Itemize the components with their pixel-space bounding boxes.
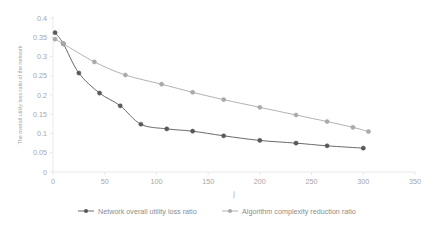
x-tick-label: 350 <box>409 177 421 186</box>
data-point-marker <box>294 113 298 117</box>
legend-label: Algorithm complexity reduction ratio <box>242 207 356 216</box>
x-tick-label: 100 <box>150 177 162 186</box>
data-point-marker <box>258 105 262 109</box>
data-point-marker <box>61 42 65 46</box>
legend-marker-icon <box>228 209 232 213</box>
y-tick-label: 0.1 <box>37 129 47 138</box>
data-point-marker <box>123 73 127 77</box>
data-point-marker <box>165 127 169 131</box>
y-tick-label: 0.3 <box>37 52 47 61</box>
data-point-marker <box>361 146 365 150</box>
series-0 <box>53 31 365 151</box>
data-point-marker <box>191 90 195 94</box>
y-tick-label: 0.25 <box>33 71 47 80</box>
data-point-marker <box>294 141 298 145</box>
data-point-marker <box>258 138 262 142</box>
series-1 <box>53 37 371 134</box>
x-tick-label: 0 <box>51 177 55 186</box>
data-point-marker <box>351 125 355 129</box>
chart-container: 00.050.10.150.20.250.30.350.405010015020… <box>0 0 440 226</box>
y-tick-label: 0.4 <box>37 14 47 23</box>
data-point-marker <box>366 129 370 133</box>
y-tick-label: 0.05 <box>33 148 47 157</box>
legend-item-0[interactable]: Network overall utility loss ratio <box>78 207 197 216</box>
data-point-marker <box>53 31 57 35</box>
chart-plot: 00.050.10.150.20.250.30.350.405010015020… <box>0 0 440 226</box>
data-point-marker <box>325 144 329 148</box>
x-tick-label: 150 <box>202 177 214 186</box>
x-tick-label: 300 <box>357 177 369 186</box>
y-tick-label: 0 <box>43 168 47 177</box>
data-point-marker <box>139 122 143 126</box>
x-tick-label: 50 <box>101 177 109 186</box>
series-line <box>55 39 368 131</box>
data-point-marker <box>92 60 96 64</box>
data-point-marker <box>97 91 101 95</box>
data-point-marker <box>77 71 81 75</box>
series-line <box>55 33 363 149</box>
y-axis-title: The overall utility loss ratio of the ne… <box>17 45 23 144</box>
data-point-marker <box>118 104 122 108</box>
data-point-marker <box>325 119 329 123</box>
y-tick-label: 0.35 <box>33 33 47 42</box>
x-tick-label: 200 <box>254 177 266 186</box>
y-tick-label: 0.2 <box>37 91 47 100</box>
x-tick-label: 250 <box>306 177 318 186</box>
data-point-marker <box>222 134 226 138</box>
data-point-marker <box>160 82 164 86</box>
data-point-marker <box>53 37 57 41</box>
legend-label: Network overall utility loss ratio <box>98 207 197 216</box>
y-tick-label: 0.15 <box>33 110 47 119</box>
legend-marker-icon <box>84 209 88 213</box>
data-point-marker <box>191 129 195 133</box>
data-point-marker <box>222 98 226 102</box>
x-axis-title: j <box>232 189 235 198</box>
legend-item-1[interactable]: Algorithm complexity reduction ratio <box>222 207 356 216</box>
